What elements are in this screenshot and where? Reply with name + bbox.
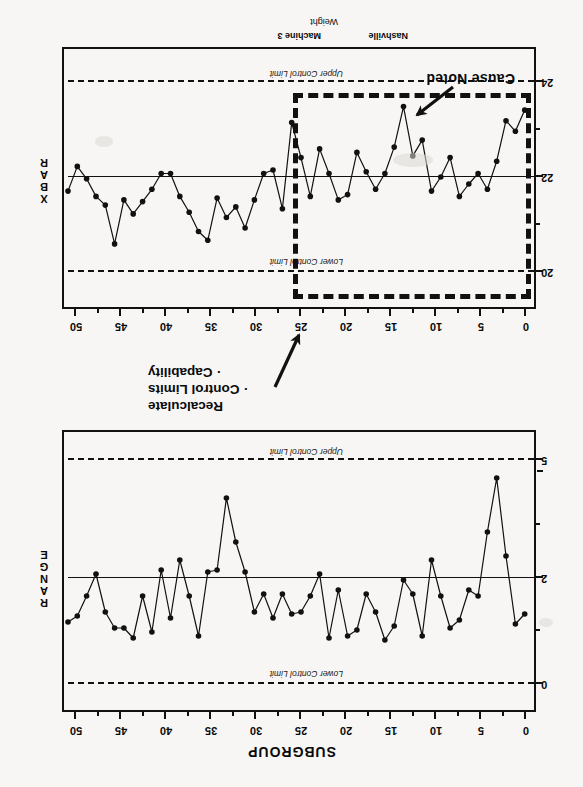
cause-noted-arrow-icon (0, 0, 583, 377)
scan-speck (539, 618, 553, 627)
xbar-axis-title-letter: R (37, 157, 51, 169)
xbar-footer-characteristic: Weight (310, 17, 338, 27)
xbar-axis-title-letter: A (37, 169, 51, 181)
xbar-footer-machine: Machine 3 (277, 31, 321, 41)
scan-speck (393, 153, 433, 167)
xbar-chart-panel: 0 5 10 15 20 25 30 35 40 45 50 20 (0, 0, 583, 377)
xbar-axis-title-letter: B (37, 181, 51, 193)
xbar-axis-title: X B A R (37, 157, 51, 205)
scan-speck (95, 136, 113, 147)
xbar-axis-title-letter: X (37, 193, 51, 205)
xbar-footer-location: Nashville (368, 31, 408, 41)
scanned-page: SUBGROUP 0 5 10 15 20 25 30 35 40 45 50 (0, 0, 583, 787)
